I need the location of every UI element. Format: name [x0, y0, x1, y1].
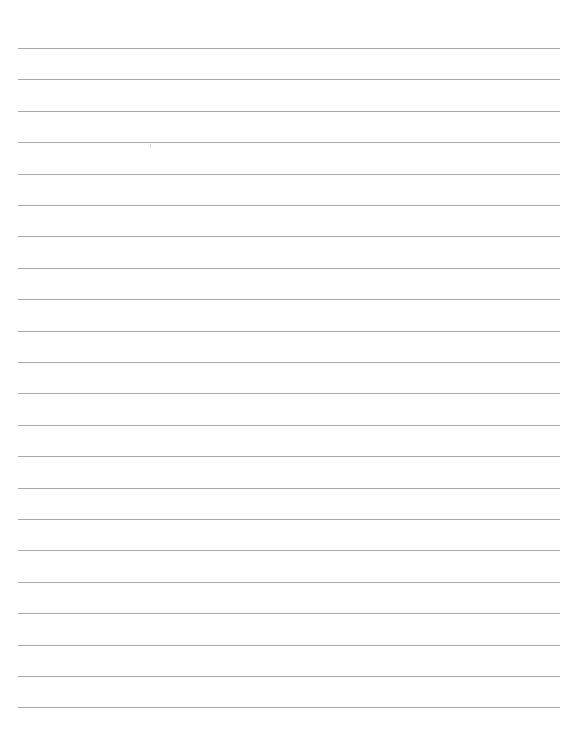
ruled-line	[18, 111, 560, 112]
ruled-line	[18, 362, 560, 363]
ruled-line	[18, 48, 560, 49]
ruled-line	[18, 236, 560, 237]
ruled-line	[18, 268, 560, 269]
ruled-line	[18, 488, 560, 489]
ruled-line	[18, 425, 560, 426]
ruled-line	[18, 174, 560, 175]
ruled-line	[18, 550, 560, 551]
ruled-line	[18, 142, 560, 143]
ruled-line	[18, 205, 560, 206]
ruled-line	[18, 613, 560, 614]
ruled-line	[18, 676, 560, 677]
ruled-line	[18, 582, 560, 583]
ruled-line	[18, 79, 560, 80]
ruled-line	[18, 331, 560, 332]
lined-paper-page	[0, 0, 575, 741]
ruled-line	[18, 393, 560, 394]
ruled-line	[18, 299, 560, 300]
ruled-line	[18, 519, 560, 520]
paper-speck	[150, 144, 151, 147]
ruled-line	[18, 456, 560, 457]
ruled-line	[18, 645, 560, 646]
ruled-line	[18, 707, 560, 708]
